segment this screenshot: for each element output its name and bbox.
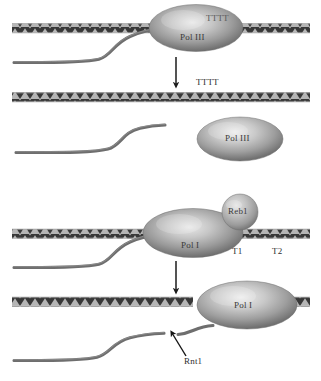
dna-duplex-panel2 — [12, 92, 310, 102]
rna-transcript-panel1 — [14, 29, 162, 63]
panel-3-group — [12, 194, 310, 291]
label-rnt1: Rnt1 — [184, 356, 202, 366]
panel-2-group — [12, 92, 310, 161]
arrow-rnt1-pointer — [172, 333, 186, 356]
rna-transcript-panel3 — [14, 235, 159, 268]
label-tttt-on-pol3: TTTT — [206, 13, 229, 23]
label-pol1-panel3: Pol I — [181, 240, 199, 250]
label-t2-site: T2 — [272, 246, 282, 256]
label-pol1-panel4: Pol I — [234, 300, 252, 310]
label-t1-site: T1 — [232, 246, 242, 256]
rna-cleaved-panel4 — [14, 333, 164, 360]
diagram-svg — [0, 0, 321, 381]
rna-released-panel2 — [16, 125, 165, 153]
label-pol3-panel1: Pol III — [180, 32, 205, 42]
panel-1-group — [12, 5, 310, 86]
label-pol3-released: Pol III — [225, 133, 250, 143]
label-reb1: Reb1 — [228, 206, 248, 216]
figure-canvas: TTTT Pol III TTTT Pol III Reb1 Pol I T1 … — [0, 0, 321, 381]
rna-stub-panel4 — [178, 326, 213, 335]
label-terminator-tttt: TTTT — [196, 77, 219, 87]
panel-4-group — [12, 281, 310, 361]
